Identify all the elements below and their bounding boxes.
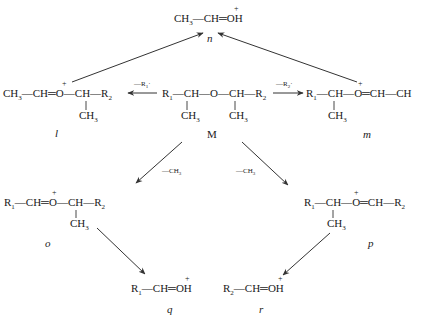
node-p-label: p bbox=[367, 237, 374, 249]
node-q: R1—CH═OH + q bbox=[131, 274, 192, 315]
node-l-label: l bbox=[55, 127, 58, 139]
node-n-label: n bbox=[207, 32, 213, 44]
node-m: R1—CH—O═CH—CH + CH3 m bbox=[306, 79, 411, 140]
arrow-p-to-r bbox=[283, 233, 330, 275]
node-M-label: M bbox=[207, 128, 217, 140]
node-o-charge: + bbox=[52, 188, 57, 197]
node-M-formula: R1—CH—O—CH—R2 bbox=[162, 87, 267, 102]
arrow-M-to-o bbox=[136, 142, 182, 183]
node-n-charge: + bbox=[234, 4, 239, 13]
node-r: R2—CH═OH + r bbox=[223, 274, 284, 315]
node-m-branch: CH3 bbox=[328, 109, 347, 124]
node-M-branch-2: CH3 bbox=[229, 109, 248, 124]
node-p-branch: CH3 bbox=[327, 217, 346, 232]
arrow-o-to-q bbox=[97, 228, 145, 274]
fragmentation-diagram: CH3—CH═OH + n CH3—CH═O—CH—R2 + CH3 l R1—… bbox=[0, 0, 422, 320]
node-M: R1—CH—O—CH—R2 CH3 CH3 M bbox=[162, 87, 267, 140]
node-r-label: r bbox=[259, 303, 264, 315]
edge-label-minus-CH3-left: —CH3 bbox=[161, 167, 182, 176]
node-l: CH3—CH═O—CH—R2 + CH3 l bbox=[3, 79, 112, 139]
node-m-charge: + bbox=[358, 79, 363, 88]
arrow-l-to-n bbox=[72, 33, 203, 82]
node-p: R1—CH—O═CH—R2 + CH3 p bbox=[304, 188, 406, 249]
node-m-label: m bbox=[363, 128, 371, 140]
arrow-M-to-p bbox=[242, 142, 288, 185]
node-l-formula: CH3—CH═O—CH—R2 bbox=[3, 87, 112, 102]
arrow-m-to-n bbox=[218, 33, 357, 82]
node-o-label: o bbox=[45, 237, 51, 249]
node-o: R1—CH═O—CH—R2 + CH3 o bbox=[4, 188, 106, 249]
node-M-branch-1: CH3 bbox=[181, 109, 200, 124]
node-n-formula: CH3—CH═OH bbox=[174, 12, 243, 27]
node-o-branch: CH3 bbox=[70, 217, 89, 232]
node-q-charge: + bbox=[185, 274, 190, 283]
node-m-formula: R1—CH—O═CH—CH bbox=[306, 87, 411, 102]
node-p-charge: + bbox=[354, 188, 359, 197]
node-q-label: q bbox=[167, 303, 173, 315]
node-o-formula: R1—CH═O—CH—R2 bbox=[4, 196, 106, 211]
edge-label-minus-R1: —R1· bbox=[133, 80, 151, 89]
node-r-charge: + bbox=[278, 274, 283, 283]
node-l-branch: CH3 bbox=[79, 109, 98, 124]
node-r-formula: R2—CH═OH bbox=[223, 282, 284, 297]
node-l-charge: + bbox=[62, 79, 67, 88]
node-q-formula: R1—CH═OH bbox=[131, 282, 192, 297]
edge-label-minus-CH3-right: —CH3 bbox=[235, 167, 256, 176]
edge-label-minus-R2: —R2· bbox=[275, 80, 293, 89]
node-p-formula: R1—CH—O═CH—R2 bbox=[304, 196, 406, 211]
